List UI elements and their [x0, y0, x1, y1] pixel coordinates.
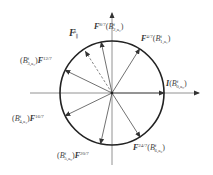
- label-f16-7-bsub: 4,a₄: [19, 119, 27, 124]
- label-f8-7-sup: 8/7: [99, 22, 105, 27]
- label-f4-7-bsub: 1,a₁: [160, 39, 168, 44]
- label-i: I(Bf0,a₀): [166, 79, 187, 89]
- label-i-main: I: [166, 79, 169, 88]
- label-f8-7: F8/7(Bf2,a₂): [94, 22, 123, 32]
- label-f20-7: (Bf5,a₅)F20/7: [57, 151, 89, 161]
- label-f-parallel-sup: a: [74, 29, 76, 34]
- label-f8-7-bsub: 2,a₂: [113, 27, 121, 32]
- vector-f4-7: [112, 49, 140, 93]
- vector-f20-7: [101, 93, 112, 144]
- label-f20-7-bsub: 5,a₅: [64, 156, 72, 161]
- center-point: [111, 92, 114, 95]
- label-i-bsub: 0,a₀: [176, 84, 184, 89]
- vector-f8-7: [101, 42, 112, 93]
- label-f12-7-sup: 12/7: [43, 56, 52, 61]
- label-f24-7-bsub: 6,a₆: [154, 148, 162, 153]
- label-f4-7: F4/7(Bf1,a₁): [141, 34, 170, 44]
- label-f16-7: (Bf4,a₄)F16/7: [12, 114, 44, 124]
- vector-f16-7: [65, 93, 112, 116]
- label-f24-7-sup: 24/7: [138, 143, 147, 148]
- label-f16-7-sup: 16/7: [35, 114, 44, 119]
- label-f12-7: (Bf3,a₃)F12/7: [20, 56, 52, 66]
- label-f4-7-sup: 4/7: [146, 34, 152, 39]
- label-f-parallel-sub: ∥: [76, 34, 78, 39]
- label-f12-7-bsub: 3,a₃: [27, 61, 35, 66]
- label-f-parallel: F∥a: [69, 28, 76, 39]
- label-f20-7-sup: 20/7: [80, 151, 89, 156]
- label-f24-7: F24/7(Bf6,a₆): [133, 143, 165, 153]
- vector-f24-7: [112, 93, 140, 137]
